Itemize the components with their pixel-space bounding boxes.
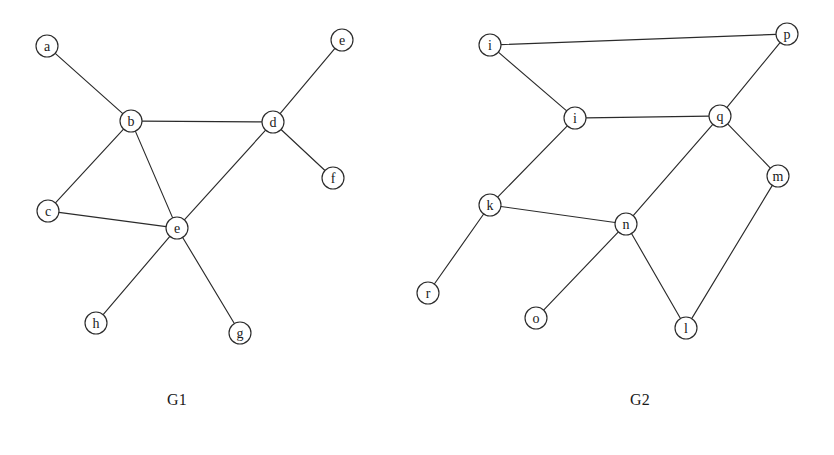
node-label-q: q [717,109,724,124]
graph-edge-e-g [183,237,235,323]
node-layer: iipqmknrol [417,23,798,339]
node-label-d: d [270,115,277,130]
node-label-b: b [128,114,135,129]
graph-node-h[interactable]: h [85,312,107,334]
graph-edge-d-e [184,130,265,220]
graph-edge-d-e_top [280,48,335,113]
graph-node-i2[interactable]: i [564,107,586,129]
graph-edge-k-r [434,214,483,284]
graph-edge-e-h [103,236,170,314]
graph-node-g[interactable]: g [229,322,251,344]
node-label-g: g [237,326,244,341]
edge-layer [434,34,780,318]
graph-node-d[interactable]: d [262,111,284,133]
graph-edge-i1-p [501,34,776,44]
graph-edge-i2-k [498,126,568,197]
node-label-i2: i [573,111,577,126]
node-label-r: r [426,286,431,301]
graph-g1: abcdeefghG1 [36,29,353,408]
figure-root: abcdeefghG1iipqmknrolG2 [0,0,834,455]
graph-caption-g2: G2 [630,391,650,408]
graph-node-o[interactable]: o [525,307,547,329]
node-label-p: p [784,27,791,42]
graph-node-e_top[interactable]: e [331,29,353,51]
node-label-e: e [174,221,180,236]
graph-node-c[interactable]: c [37,200,59,222]
graph-edge-p-q [727,43,780,108]
graph-edge-n-l [632,234,681,319]
graph-node-f[interactable]: f [322,167,344,189]
graph-node-e[interactable]: e [166,217,188,239]
node-layer: abcdeefgh [36,29,353,344]
graph-node-p[interactable]: p [776,23,798,45]
graph-caption-g1: G1 [167,391,187,408]
graph-edge-m-l [692,185,773,318]
graph-node-i1[interactable]: i [479,34,501,56]
graph-edge-i1-i2 [498,52,566,111]
graph-edge-b-e [135,131,172,218]
graph-edge-c-e [59,212,166,226]
node-label-c: c [45,204,51,219]
node-label-l: l [684,321,688,336]
node-label-n: n [623,217,630,232]
graphs-layer: abcdeefghG1iipqmknrolG2 [36,23,798,408]
node-label-e_top: e [339,33,345,48]
graph-edge-q-n [633,124,713,215]
graph-node-b[interactable]: b [120,110,142,132]
graph-node-m[interactable]: m [767,165,789,187]
node-label-h: h [93,316,100,331]
node-label-o: o [533,311,540,326]
node-label-a: a [44,39,51,54]
graph-g2: iipqmknrolG2 [417,23,798,408]
graph-edge-d-f [281,130,325,171]
graph-node-l[interactable]: l [675,317,697,339]
graph-node-q[interactable]: q [709,105,731,127]
node-label-f: f [331,171,336,186]
node-label-i1: i [488,38,492,53]
graph-node-n[interactable]: n [615,213,637,235]
node-label-m: m [773,169,784,184]
graph-figure-canvas: abcdeefghG1iipqmknrolG2 [0,0,834,455]
graph-edge-b-c [55,129,123,203]
graph-node-r[interactable]: r [417,282,439,304]
graph-edge-i2-q [586,116,709,118]
graph-edge-n-o [544,232,619,310]
graph-edge-b-d [142,121,262,122]
graph-edge-k-n [501,207,615,223]
graph-edge-q-m [728,124,771,168]
graph-node-a[interactable]: a [36,35,58,57]
edge-layer [55,48,335,323]
graph-edge-a-b [55,53,123,113]
node-label-k: k [487,198,494,213]
graph-node-k[interactable]: k [479,194,501,216]
